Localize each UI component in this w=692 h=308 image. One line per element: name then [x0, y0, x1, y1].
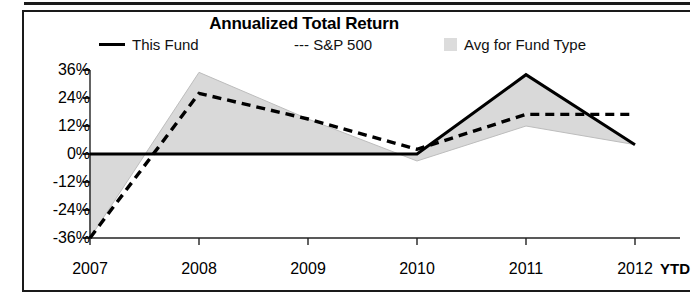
x-tick-label: 2010 — [399, 260, 435, 278]
y-tick-label: 12% — [58, 117, 90, 135]
y-tick-label: 24% — [58, 89, 90, 107]
y-tick-label: -36% — [53, 229, 90, 247]
y-tick-label: 36% — [58, 61, 90, 79]
x-tick-label: 2011 — [509, 260, 543, 278]
y-tick-label: 0% — [67, 145, 90, 163]
y-axis-tick-labels: 36%24%12%0%-12%-24%-36% — [32, 12, 90, 294]
x-tick-label: 2007 — [72, 260, 108, 278]
y-tick-label: -24% — [53, 201, 90, 219]
chart-canvas — [24, 12, 692, 294]
x-tick-label: 2008 — [181, 260, 217, 278]
chart-panel: Annualized Total Return This Fund --- S&… — [22, 10, 690, 292]
top-divider — [24, 2, 690, 5]
plot-area: 36%24%12%0%-12%-24%-36% 2007200820092010… — [24, 12, 692, 294]
x-axis-tick-labels: 200720082009201020112012 — [24, 260, 692, 288]
x-axis-ytd-note: YTD — [660, 260, 690, 277]
y-tick-label: -12% — [53, 173, 90, 191]
x-tick-label: 2009 — [290, 260, 326, 278]
x-tick-label: 2012 — [617, 260, 653, 278]
